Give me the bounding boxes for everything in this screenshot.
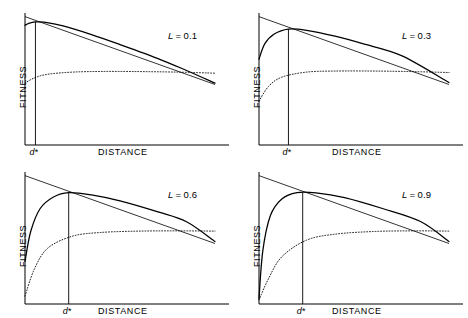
panel-parameter-label: L = 0.6: [168, 189, 197, 200]
series-fitness-curve: [25, 192, 215, 261]
series-straight-line: [259, 176, 449, 244]
panel-1: FITNESSDISTANCEd*L = 0.1: [0, 0, 234, 159]
y-axis-label: FITNESS: [18, 225, 28, 267]
series-dotted-curve: [25, 71, 215, 83]
panel-plot-1: [0, 0, 234, 159]
panel-plot-4: [234, 159, 468, 318]
x-axis-label: DISTANCE: [332, 147, 382, 157]
panel-2: FITNESSDISTANCEd*L = 0.3: [234, 0, 468, 159]
x-axis-label: DISTANCE: [98, 147, 148, 157]
x-axis-label: DISTANCE: [332, 306, 382, 316]
series-dotted-curve: [259, 71, 449, 101]
panel-4: FITNESSDISTANCEd*L = 0.9: [234, 159, 468, 318]
x-axis-label: DISTANCE: [98, 306, 148, 316]
panel-parameter-label: L = 0.1: [168, 30, 197, 41]
panel-3: FITNESSDISTANCEd*L = 0.6: [0, 159, 234, 318]
d-star-label: d*: [282, 147, 291, 157]
series-straight-line: [259, 17, 449, 85]
panel-parameter-label: L = 0.3: [402, 30, 431, 41]
series-dotted-curve: [259, 231, 449, 300]
series-straight-line: [25, 17, 215, 85]
figure-container: FITNESSDISTANCEd*L = 0.1FITNESSDISTANCEd…: [0, 0, 468, 318]
series-fitness-curve: [259, 192, 449, 299]
d-star-label: d*: [297, 306, 306, 316]
y-axis-label: FITNESS: [18, 66, 28, 108]
y-axis-label: FITNESS: [252, 225, 262, 267]
y-axis-label: FITNESS: [252, 66, 262, 108]
panel-plot-3: [0, 159, 234, 318]
panel-plot-2: [234, 0, 468, 159]
panel-parameter-label: L = 0.9: [402, 189, 431, 200]
d-star-label: d*: [29, 147, 38, 157]
series-dotted-curve: [25, 231, 215, 296]
series-straight-line: [25, 176, 215, 244]
d-star-label: d*: [63, 306, 72, 316]
